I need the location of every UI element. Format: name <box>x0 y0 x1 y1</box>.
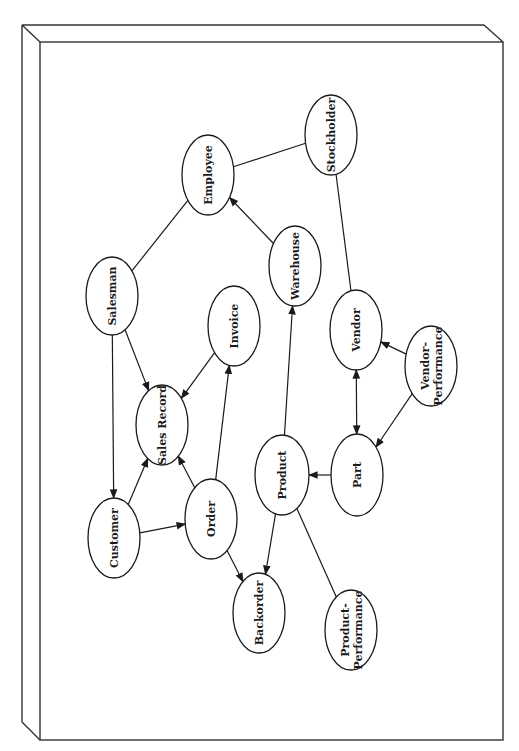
entity-label-line: Backorder <box>253 581 266 646</box>
entity-label-line: Vendor <box>350 308 363 353</box>
entity-sales-record[interactable]: Sales Record <box>136 385 188 465</box>
edge-invoice-to-sales-record <box>181 353 214 399</box>
entity-label-line: Order <box>205 501 218 537</box>
edge-product-to-product-performance <box>297 508 336 597</box>
entity-label-line: Performance <box>352 590 365 669</box>
entity-label-line: Warehouse <box>289 232 302 301</box>
entity-backorder[interactable]: Backorder <box>233 573 285 653</box>
entity-label-line: Stockholder <box>325 97 338 172</box>
entity-label: Salesman <box>106 266 119 325</box>
entity-invoice[interactable]: Invoice <box>208 286 260 366</box>
edge-vendor-performance-to-part <box>376 394 412 447</box>
entity-label: Invoice <box>228 304 241 349</box>
entity-label: Stockholder <box>325 97 338 172</box>
edge-order-to-invoice <box>216 365 230 479</box>
entity-vendor-performance[interactable]: Vendor-Performance <box>405 326 457 406</box>
entity-label-line: Product <box>276 450 289 500</box>
edge-warehouse-to-employee <box>230 197 274 243</box>
entity-nodes: EmployeeStockholderSalesmanWarehouseInvo… <box>86 95 457 670</box>
entity-vendor[interactable]: Vendor <box>330 290 382 370</box>
entity-stockholder[interactable]: Stockholder <box>305 95 357 175</box>
entity-label: Backorder <box>253 581 266 646</box>
edge-salesman-to-customer <box>112 335 113 498</box>
edge-customer-to-sales-record <box>128 458 148 504</box>
entity-label-line: Part <box>351 461 364 488</box>
edge-vendor-performance-to-vendor <box>381 342 406 354</box>
entity-label: Order <box>205 501 218 537</box>
entity-product-performance[interactable]: Product-Performance <box>325 590 377 670</box>
entity-label: Warehouse <box>289 232 302 301</box>
entity-customer[interactable]: Customer <box>88 498 140 578</box>
edge-employee-to-stockholder <box>233 143 305 166</box>
frame-bottom-left-bevel <box>22 722 40 740</box>
entity-label-line: Performance <box>432 326 445 405</box>
edge-product-to-warehouse <box>284 306 292 435</box>
entity-label: Employee <box>202 145 215 205</box>
entity-label: Vendor <box>350 308 363 353</box>
entity-product[interactable]: Product <box>255 435 309 515</box>
entity-label: Sales Record <box>156 385 169 465</box>
frame-top-right-bevel <box>484 25 503 42</box>
entity-salesman[interactable]: Salesman <box>86 257 138 335</box>
edge-salesman-to-sales-record <box>125 330 149 391</box>
edge-order-to-backorder <box>227 550 243 581</box>
entity-label: Product <box>276 450 289 500</box>
entity-employee[interactable]: Employee <box>182 135 234 215</box>
edge-order-to-sales-record <box>178 456 194 488</box>
er-diagram-canvas: EmployeeStockholderSalesmanWarehouseInvo… <box>0 0 519 751</box>
entity-label-line: Product- <box>339 603 352 656</box>
entity-order[interactable]: Order <box>185 479 237 559</box>
edge-salesman-to-employee <box>132 200 188 271</box>
entity-part[interactable]: Part <box>331 434 383 516</box>
entity-label: Part <box>351 461 364 488</box>
edge-product-to-backorder <box>265 514 275 574</box>
entity-label-line: Vendor- <box>419 342 432 391</box>
entity-label-line: Salesman <box>106 266 119 325</box>
frame-top-left-bevel <box>22 25 40 42</box>
entity-label-line: Sales Record <box>156 385 169 465</box>
entity-label-line: Invoice <box>228 304 241 349</box>
entity-label-line: Employee <box>202 145 215 205</box>
entity-warehouse[interactable]: Warehouse <box>269 226 321 306</box>
edge-stockholder-to-vendor <box>336 174 351 291</box>
entity-label-line: Customer <box>108 508 121 568</box>
relationship-edges <box>112 143 412 597</box>
entity-label: Customer <box>108 508 121 568</box>
edge-customer-to-order <box>140 524 185 533</box>
er-diagram: EmployeeStockholderSalesmanWarehouseInvo… <box>0 0 519 751</box>
